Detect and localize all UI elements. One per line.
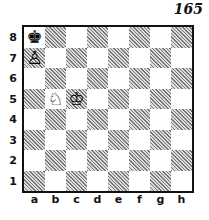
square-d5 [87, 89, 108, 110]
square-g7 [150, 48, 171, 69]
file-label: g [150, 193, 171, 206]
square-b6 [45, 68, 66, 89]
square-c3 [66, 130, 87, 151]
square-f4 [129, 109, 150, 130]
file-label: e [108, 193, 129, 206]
square-c7 [66, 48, 87, 69]
square-a4 [24, 109, 45, 130]
square-h8 [171, 27, 192, 48]
square-a5 [24, 89, 45, 110]
square-b8 [45, 27, 66, 48]
square-b4 [45, 109, 66, 130]
rank-label: 7 [8, 52, 18, 65]
square-h6 [171, 68, 192, 89]
square-c4 [66, 109, 87, 130]
square-c1 [66, 171, 87, 192]
square-h2 [171, 150, 192, 171]
square-g1 [150, 171, 171, 192]
square-e7 [108, 48, 129, 69]
square-b2 [45, 150, 66, 171]
file-label: f [129, 193, 150, 206]
square-c5: ♔ [66, 89, 87, 110]
square-b1 [45, 171, 66, 192]
square-d1 [87, 171, 108, 192]
square-e6 [108, 68, 129, 89]
file-label: b [45, 193, 66, 206]
square-g2 [150, 150, 171, 171]
square-g5 [150, 89, 171, 110]
square-e5 [108, 89, 129, 110]
rank-label: 2 [8, 154, 18, 167]
square-e1 [108, 171, 129, 192]
square-f2 [129, 150, 150, 171]
square-c6 [66, 68, 87, 89]
square-g8 [150, 27, 171, 48]
square-d7 [87, 48, 108, 69]
square-a1 [24, 171, 45, 192]
square-f7 [129, 48, 150, 69]
square-a8: ♚ [24, 27, 45, 48]
rank-label: 6 [8, 72, 18, 85]
square-a2 [24, 150, 45, 171]
square-h5 [171, 89, 192, 110]
rank-label: 4 [8, 113, 18, 126]
file-label: h [171, 193, 192, 206]
square-f1 [129, 171, 150, 192]
file-label: c [66, 193, 87, 206]
square-h4 [171, 109, 192, 130]
square-d4 [87, 109, 108, 130]
square-e2 [108, 150, 129, 171]
rank-label: 1 [8, 175, 18, 188]
file-label: d [87, 193, 108, 206]
square-b7 [45, 48, 66, 69]
square-h3 [171, 130, 192, 151]
rank-label: 3 [8, 134, 18, 147]
square-f8 [129, 27, 150, 48]
diagram-number: 165 [174, 1, 203, 17]
square-f5 [129, 89, 150, 110]
square-h7 [171, 48, 192, 69]
square-c8 [66, 27, 87, 48]
white-knight-icon: ♘ [47, 90, 63, 108]
square-a7: ♙ [24, 48, 45, 69]
square-h1 [171, 171, 192, 192]
square-b5: ♘ [45, 89, 66, 110]
black-king-icon: ♚ [26, 28, 42, 46]
square-b3 [45, 130, 66, 151]
square-e4 [108, 109, 129, 130]
square-g3 [150, 130, 171, 151]
white-pawn-icon: ♙ [26, 49, 42, 67]
square-f6 [129, 68, 150, 89]
file-label: a [24, 193, 45, 206]
square-g4 [150, 109, 171, 130]
square-d8 [87, 27, 108, 48]
rank-label: 5 [8, 93, 18, 106]
square-e8 [108, 27, 129, 48]
square-a6 [24, 68, 45, 89]
square-f3 [129, 130, 150, 151]
square-d2 [87, 150, 108, 171]
square-e3 [108, 130, 129, 151]
square-d3 [87, 130, 108, 151]
rank-label: 8 [8, 31, 18, 44]
white-king-icon: ♔ [68, 90, 84, 108]
square-c2 [66, 150, 87, 171]
square-a3 [24, 130, 45, 151]
square-g6 [150, 68, 171, 89]
chess-board: ♚♙♘♔ [22, 25, 194, 193]
square-d6 [87, 68, 108, 89]
